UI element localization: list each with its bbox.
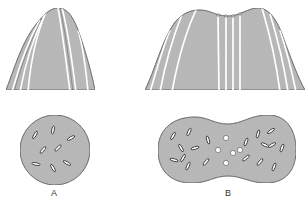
panel-a-cross-section: A [20, 115, 90, 198]
vacuole [230, 150, 235, 155]
dumbbell-section [158, 115, 296, 183]
vacuole [223, 160, 228, 165]
figure-canvas: A B [0, 0, 306, 202]
panel-a-top-structure [6, 8, 95, 92]
panel-b-top-structure [145, 8, 305, 92]
double-hump-body [145, 8, 305, 90]
panel-label-b: B [225, 188, 231, 198]
panel-b-cross-section: B [158, 115, 296, 198]
panel-label-a: A [51, 188, 57, 198]
vacuole [237, 147, 242, 152]
vacuole [223, 135, 228, 140]
vacuole [215, 147, 220, 152]
